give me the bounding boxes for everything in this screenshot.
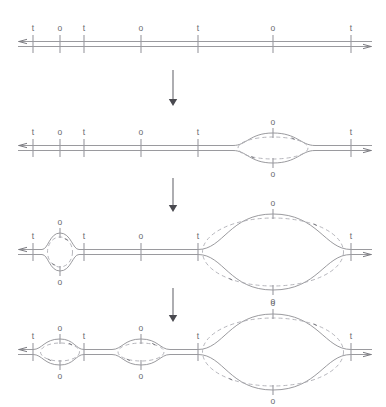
site-label-terminus: t	[83, 231, 86, 241]
strand-lower-stage-2	[18, 151, 372, 164]
stage-arrows-layer	[169, 70, 177, 322]
site-label-terminus: t	[197, 231, 200, 241]
site-label-origin: o	[58, 127, 63, 137]
stage-arrow-head	[169, 99, 177, 106]
site-label-terminus: t	[350, 127, 353, 137]
site-label-terminus: t	[83, 331, 86, 341]
site-label-terminus: t	[350, 23, 353, 33]
site-label-terminus: t	[32, 127, 35, 137]
loop-direction-marker	[152, 343, 155, 345]
loop-direction-marker	[314, 224, 317, 226]
bubble-origin-label-bottom: o	[271, 396, 276, 406]
stages-layer: totototoototottoooottottooooootttt	[18, 23, 372, 406]
site-label-terminus: t	[83, 127, 86, 137]
stage-2: oototott	[18, 117, 372, 179]
site-label-origin: o	[139, 23, 144, 33]
stage-arrow-3-to-4	[169, 288, 177, 322]
dashed-replication-loop	[41, 343, 80, 361]
site-label-terminus: t	[32, 231, 35, 241]
site-label-origin: o	[58, 23, 63, 33]
loop-direction-marker	[127, 359, 130, 361]
site-label-terminus: t	[197, 127, 200, 137]
strand-lower-stage-4	[18, 355, 372, 391]
dashed-replication-loop	[203, 218, 344, 286]
site-label-terminus: t	[350, 231, 353, 241]
figure-canvas: totototoototottoooottottooooootttt	[0, 0, 386, 407]
loop-direction-marker	[314, 324, 317, 326]
stage-arrow-1-to-2	[169, 70, 177, 106]
dashed-replication-loop	[203, 318, 344, 386]
site-label-terminus: t	[197, 23, 200, 33]
loop-direction-marker	[69, 343, 72, 345]
stage-arrow-2-to-3	[169, 178, 177, 212]
bubble-origin-label-bottom: o	[58, 371, 63, 381]
bubble-origin-label-top: o	[271, 198, 276, 208]
bubble-origin-label-top: o	[271, 117, 276, 127]
bubble-origin-label-top: o	[58, 217, 63, 227]
loop-direction-marker	[229, 379, 232, 381]
site-label-terminus: t	[197, 331, 200, 341]
site-label-terminus: t	[32, 331, 35, 341]
site-label-terminus: t	[32, 23, 35, 33]
dashed-replication-loop	[48, 237, 73, 267]
bubble-origin-label-top: o	[271, 298, 276, 308]
stage-arrow-head	[169, 205, 177, 212]
stage-3: oooottott	[18, 198, 372, 306]
site-label-origin: o	[271, 23, 276, 33]
site-label-origin: o	[139, 127, 144, 137]
loop-direction-marker	[48, 359, 51, 361]
bubble-origin-label-bottom: o	[139, 371, 144, 381]
site-label-terminus: t	[350, 331, 353, 341]
strand-upper-stage-2	[18, 133, 372, 146]
stage-1: tototot	[18, 23, 372, 53]
loop-direction-marker	[229, 279, 232, 281]
stage-4: ooooootttt	[18, 298, 372, 406]
site-label-terminus: t	[83, 23, 86, 33]
loop-direction-marker	[52, 264, 55, 266]
bubble-origin-label-bottom: o	[271, 169, 276, 179]
bubble-origin-label-top: o	[58, 323, 63, 333]
stage-arrow-head	[169, 315, 177, 322]
bubble-origin-label-top: o	[139, 323, 144, 333]
dashed-replication-loop	[118, 343, 164, 361]
site-label-origin: o	[139, 231, 144, 241]
bubble-origin-label-bottom: o	[58, 277, 63, 287]
loop-direction-marker	[65, 239, 68, 241]
replication-bubble-figure: totototoototottoooottottooooootttt	[0, 0, 386, 407]
